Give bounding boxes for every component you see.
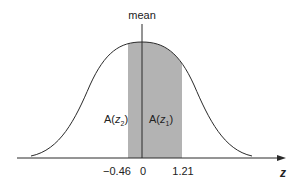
axis-label-z: z — [279, 166, 286, 180]
tick-label-121: 1.21 — [172, 165, 193, 177]
axis-arrow-icon — [277, 155, 286, 161]
normal-distribution-diagram: mean A(z2) A(z1) −0.46 0 1.21 z — [0, 0, 297, 183]
tick-label-neg046: −0.46 — [103, 165, 131, 177]
shaded-area — [128, 30, 182, 158]
tick-label-zero: 0 — [140, 165, 146, 177]
region-left-label: A(z2) — [104, 113, 128, 127]
region-right-label: A(z1) — [149, 113, 173, 127]
mean-label: mean — [128, 9, 156, 21]
